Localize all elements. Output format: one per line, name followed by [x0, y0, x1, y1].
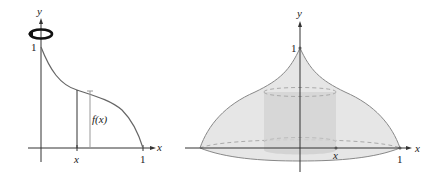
apex-point — [299, 47, 302, 50]
y-tick-label-one: 1 — [31, 41, 37, 53]
function-label: f(x) — [92, 113, 108, 126]
x-tick-label-var: x — [332, 149, 338, 161]
x-axis-arrow-icon — [150, 146, 156, 150]
x-axis-arrow-icon — [406, 146, 412, 150]
x-tick-label-one: 1 — [397, 153, 403, 165]
x-axis-label: x — [414, 142, 420, 154]
x-tick-label-one: 1 — [140, 153, 146, 165]
x-one-point — [399, 147, 402, 150]
y-tick-label-one: 1 — [291, 42, 297, 54]
y-axis-arrow-icon — [298, 21, 302, 27]
y-axis-arrow-icon — [39, 18, 43, 24]
left-figure: y x 1 1 x f(x) — [0, 0, 170, 176]
y-axis-label: y — [36, 5, 42, 17]
right-figure: y x 1 1 x — [170, 0, 441, 176]
x-tick-label-var: x — [73, 153, 79, 165]
y-axis-label: y — [296, 7, 302, 19]
rotation-arrow-icon — [28, 30, 52, 39]
function-curve — [41, 47, 143, 148]
x-axis-label: x — [156, 141, 162, 153]
